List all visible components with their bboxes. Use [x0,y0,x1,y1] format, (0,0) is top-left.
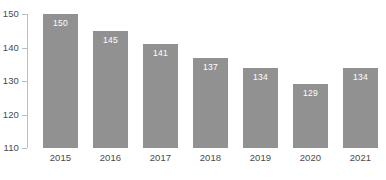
y-axis-tick [22,48,27,49]
bar-value-label: 137 [193,63,228,72]
x-axis-label-2018: 2018 [193,152,228,163]
bar-value-label: 145 [93,36,128,45]
bar-2019[interactable]: 134 [243,68,278,148]
bar-chart: 150 140 130 120 110 150 145 141 137 [0,0,386,180]
bar-slot: 141 [143,14,178,148]
plot-area: 150 145 141 137 134 129 [28,14,378,148]
bar-value-label: 134 [243,73,278,82]
y-axis-label: 130 [0,76,19,86]
y-axis-tick [22,115,27,116]
bar-slot: 145 [93,14,128,148]
y-axis-label: 120 [0,110,19,120]
x-axis-label-2019: 2019 [243,152,278,163]
y-axis-label: 150 [0,9,19,19]
bar-2018[interactable]: 137 [193,58,228,148]
bar-value-label: 134 [343,73,378,82]
y-axis-tick [22,148,27,149]
bar-value-label: 150 [43,19,78,28]
y-axis-tick [22,81,27,82]
bar-2017[interactable]: 141 [143,44,178,148]
bar-slot: 137 [193,14,228,148]
bar-slot: 134 [343,14,378,148]
bar-2020[interactable]: 129 [293,84,328,148]
y-axis-label: 140 [0,43,19,53]
bar-2015[interactable]: 150 [43,14,78,148]
bar-value-label: 129 [293,89,328,98]
y-axis-label: 110 [0,143,19,153]
bar-value-label: 141 [143,49,178,58]
x-axis-label-2016: 2016 [93,152,128,163]
bar-slot: 134 [243,14,278,148]
y-axis-tick [22,14,27,15]
x-axis-label-2017: 2017 [143,152,178,163]
x-axis-label-2021: 2021 [343,152,378,163]
x-axis-label-2020: 2020 [293,152,328,163]
bar-slot: 129 [293,14,328,148]
bar-2016[interactable]: 145 [93,31,128,148]
x-axis-label-2015: 2015 [43,152,78,163]
bar-slot: 150 [43,14,78,148]
bar-2021[interactable]: 134 [343,68,378,148]
